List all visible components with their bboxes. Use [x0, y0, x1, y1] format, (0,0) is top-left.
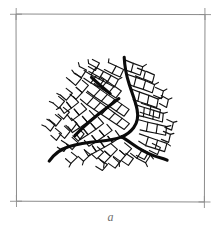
figure-canvas: [0, 0, 221, 235]
cell-tick: [108, 59, 109, 63]
cell-tick: [104, 163, 105, 167]
cell-tick: [88, 60, 89, 64]
figure-panel: a: [0, 0, 221, 235]
